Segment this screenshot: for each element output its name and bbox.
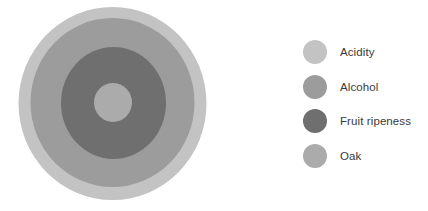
legend-swatch-fruit-ripeness (303, 109, 327, 133)
legend-label: Acidity (340, 46, 375, 58)
legend-item-fruit-ripeness: Fruit ripeness (303, 109, 411, 133)
legend-item-alcohol: Alcohol (303, 75, 378, 99)
legend-label: Oak (340, 150, 361, 162)
legend-swatch-oak (303, 144, 327, 168)
legend-swatch-alcohol (303, 75, 327, 99)
legend-item-oak: Oak (303, 144, 361, 168)
nested-circle-chart (0, 0, 230, 211)
legend-label: Fruit ripeness (340, 115, 411, 127)
circle-oak (94, 83, 132, 122)
legend-item-acidity: Acidity (303, 40, 375, 64)
legend-label: Alcohol (340, 81, 378, 93)
legend-swatch-acidity (303, 40, 327, 64)
